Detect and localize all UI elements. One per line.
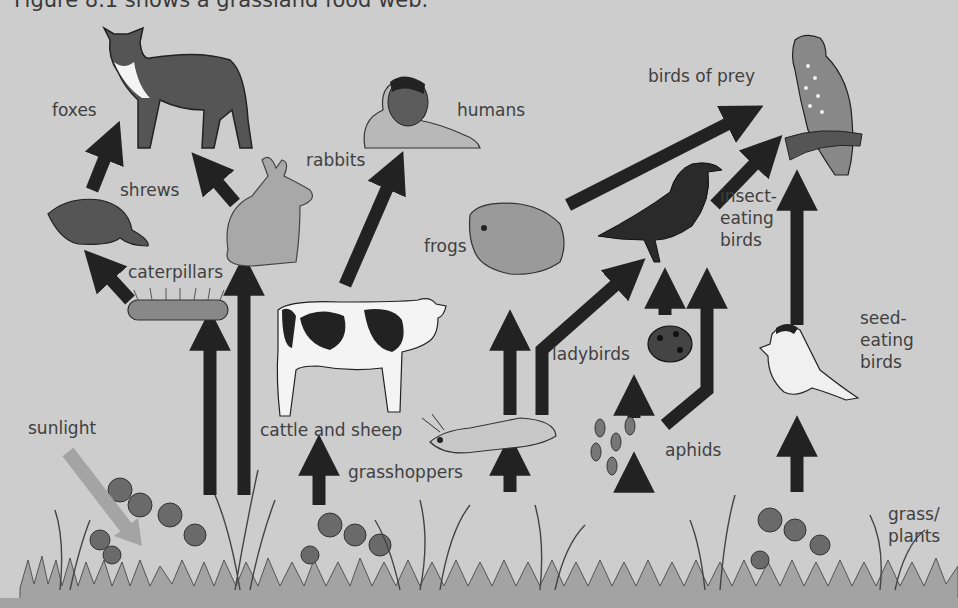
bird-of-prey-icon: [785, 35, 862, 175]
label-foxes: foxes: [52, 100, 97, 120]
rabbit-icon: [227, 157, 312, 266]
label-insect-eating-birds-line2: eating: [720, 208, 774, 228]
cow-icon: [277, 299, 446, 416]
ladybird-icon: [648, 326, 692, 362]
label-humans: humans: [457, 100, 525, 120]
label-shrews: shrews: [120, 180, 179, 200]
label-grass-plants-line2: plants: [888, 526, 940, 546]
label-aphids: aphids: [665, 440, 721, 460]
seed-eating-bird-icon: [760, 324, 858, 400]
label-caterpillars: caterpillars: [128, 262, 223, 282]
label-grass-plants-line1: grass/: [888, 504, 940, 524]
label-insect-eating-birds-line1: insect-: [720, 186, 777, 206]
arrow-frogs-to-birds-of-prey: [568, 115, 745, 205]
fox-icon: [104, 28, 252, 148]
label-insect-eating-birds-line3: birds: [720, 230, 762, 250]
aphids-icon: [591, 417, 635, 475]
shrew-icon: [48, 199, 148, 246]
arrow-shrews-to-foxes: [92, 140, 112, 190]
label-cattle-and-sheep: cattle and sheep: [260, 420, 402, 440]
caterpillar-icon: [128, 288, 228, 320]
label-frogs: frogs: [424, 236, 467, 256]
label-sunlight: sunlight: [28, 418, 96, 438]
label-seed-eating-birds-line1: seed-: [860, 308, 907, 328]
arrow-caterpillars-to-shrews: [98, 265, 130, 300]
label-grasshoppers: grasshoppers: [348, 462, 463, 482]
arrow-cattle-to-humans: [345, 170, 395, 285]
diagram-graphics: [0, 0, 958, 608]
label-seed-eating-birds-line2: eating: [860, 330, 914, 350]
label-rabbits: rabbits: [306, 150, 365, 170]
food-web-diagram: Figure 8.1 shows a grassland food web.: [0, 0, 958, 608]
label-ladybirds: ladybirds: [552, 344, 630, 364]
label-birds-of-prey: birds of prey: [648, 66, 755, 86]
frog-icon: [470, 203, 565, 274]
flowers-icon: [90, 478, 830, 569]
ground-grass-icon: [0, 556, 958, 608]
label-seed-eating-birds-line3: birds: [860, 352, 902, 372]
arrow-rabbits-to-foxes: [205, 168, 235, 203]
grasshopper-icon: [422, 414, 556, 453]
